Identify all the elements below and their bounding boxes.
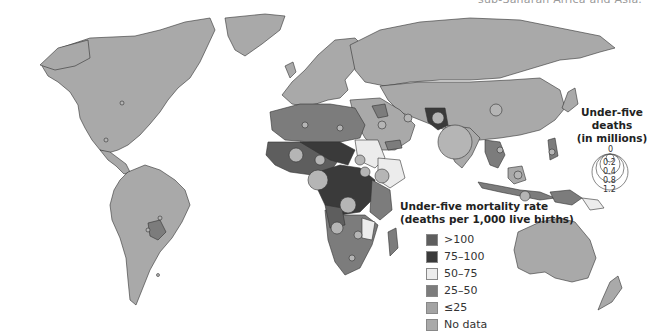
legend-label: ≤25: [444, 301, 467, 314]
north-africa: [270, 104, 365, 142]
legend-item-gt100: >100: [426, 231, 574, 248]
deaths-legend-title-2: (in millions): [570, 132, 654, 145]
rate-legend: Under-five mortality rate (deaths per 1,…: [400, 200, 574, 333]
rate-legend-title-2: (deaths per 1,000 live births): [400, 213, 574, 226]
deaths-legend-title-1: Under-five deaths: [570, 106, 654, 132]
southeast-asia: [485, 140, 505, 168]
swatch-icon: [426, 302, 438, 314]
yemen: [385, 140, 402, 150]
russia: [350, 18, 615, 86]
swatch-icon: [426, 234, 438, 246]
legend-label: >100: [444, 233, 474, 246]
swatch-icon: [426, 285, 438, 297]
rate-legend-title-1: Under-five mortality rate: [400, 200, 574, 213]
deaths-value-1: 0.2: [603, 158, 616, 167]
deaths-value-2: 0.4: [603, 167, 616, 176]
indonesia: [478, 182, 555, 200]
madagascar: [388, 228, 398, 256]
central-america: [100, 150, 130, 174]
uk: [285, 62, 296, 78]
deaths-legend: Under-five deaths (in millions) 0 0.2 0.…: [570, 106, 654, 207]
swatch-icon: [426, 319, 438, 331]
legend-label: 75–100: [444, 250, 485, 263]
legend-item-no-data: No data: [426, 316, 574, 333]
north-america: [42, 18, 215, 153]
legend-label: 25–50: [444, 284, 478, 297]
legend-label: No data: [444, 318, 487, 331]
legend-item-50-75: 50–75: [426, 265, 574, 282]
swatch-icon: [426, 268, 438, 280]
swatch-icon: [426, 251, 438, 263]
legend-label: 50–75: [444, 267, 478, 280]
new-zealand: [598, 276, 622, 310]
legend-item-le25: ≤25: [426, 299, 574, 316]
legend-item-75-100: 75–100: [426, 248, 574, 265]
greenland: [225, 14, 285, 56]
deaths-value-3: 0.8: [603, 176, 616, 185]
deaths-value-4: 1.2: [603, 185, 616, 194]
deaths-value-0: 0: [608, 145, 613, 154]
legend-item-25-50: 25–50: [426, 282, 574, 299]
